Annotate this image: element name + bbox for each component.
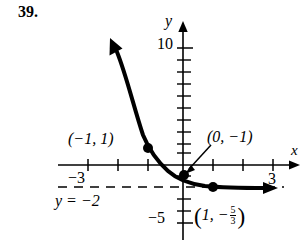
y-axis-ticks <box>177 48 193 223</box>
asymptote-label: y = −2 <box>55 193 100 209</box>
y-axis-arrowhead-icon <box>178 21 187 32</box>
y-tick-label-neg5: −5 <box>148 210 165 226</box>
y-axis-label: y <box>165 13 172 29</box>
x-axis-arrowhead-icon <box>289 161 300 170</box>
point-c-x-value: 1, <box>202 206 218 223</box>
exponential-function-graph-figure: 39. <box>0 0 308 249</box>
point-label-0-neg1: (0, −1) <box>207 129 252 145</box>
y-tick-label-10: 10 <box>157 36 173 52</box>
point-label-1-neg5over3: (1, −53) <box>194 205 245 229</box>
x-axis-label: x <box>291 143 298 158</box>
x-tick-label-3: 3 <box>268 171 276 187</box>
data-point-1-neg5over3 <box>208 182 218 192</box>
callout-arrowhead-icon <box>185 165 195 174</box>
data-point-neg1-1 <box>143 143 153 153</box>
fraction-denominator: 3 <box>230 216 237 226</box>
point-c-sign: − <box>218 206 229 223</box>
x-tick-label-neg3: −3 <box>68 170 85 186</box>
fraction-five-thirds: 53 <box>230 205 237 227</box>
paren-close: ) <box>237 205 245 228</box>
point-label-neg1-1: (−1, 1) <box>68 131 113 147</box>
paren-open: ( <box>194 205 202 228</box>
